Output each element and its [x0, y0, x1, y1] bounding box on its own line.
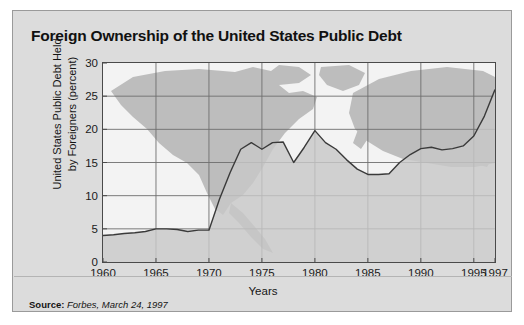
y-tick-label-5: 5 [72, 223, 98, 235]
plot-area [102, 62, 496, 263]
chart-canvas [103, 63, 495, 262]
x-tick-label-1975: 1975 [249, 267, 275, 279]
y-axis-title: United States Public Debt Held by Foreig… [50, 16, 84, 212]
source-note: Source: Forbes, March 24, 1997 [29, 299, 168, 310]
x-axis-title: Years [13, 285, 513, 297]
x-tick-label-1965: 1965 [143, 267, 169, 279]
x-tick-label-1997: 1997 [482, 267, 508, 279]
source-divider [14, 276, 512, 277]
source-text: Forbes, March 24, 1997 [67, 299, 168, 310]
x-tick-label-1980: 1980 [302, 267, 328, 279]
plot-region [102, 62, 496, 263]
y-axis-title-line2: by Foreigners (percent) [65, 16, 80, 212]
source-label: Source: [29, 299, 64, 310]
x-axis-ticks: 196019651970197519801985199019951997 [102, 267, 496, 283]
page-title: Foreign Ownership of the United States P… [31, 27, 402, 45]
chart-figure: Foreign Ownership of the United States P… [12, 10, 512, 312]
y-axis-title-line1: United States Public Debt Held [50, 16, 65, 212]
x-tick-label-1970: 1970 [196, 267, 222, 279]
x-tick-label-1990: 1990 [408, 267, 434, 279]
x-tick-label-1960: 1960 [90, 267, 116, 279]
map-landmass-2 [319, 65, 365, 91]
x-tick-label-1985: 1985 [355, 267, 381, 279]
